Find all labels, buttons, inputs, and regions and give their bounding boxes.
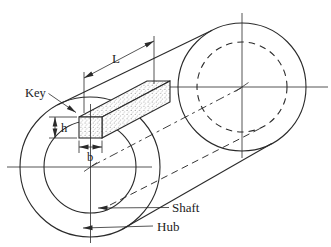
hub-label: Hub xyxy=(157,219,179,234)
dim-L-label: L xyxy=(112,51,120,66)
shaft-label: Shaft xyxy=(172,200,200,215)
keyed-shaft-hub-figure: L h b Key Shaft Hub xyxy=(0,0,331,247)
dim-b-label: b xyxy=(87,150,93,164)
shaft-leader-line xyxy=(98,208,169,209)
dim-h-label: h xyxy=(61,121,68,135)
key-label: Key xyxy=(25,86,47,100)
keyed-shaft-hub-diagram: L h b Key Shaft Hub xyxy=(0,0,331,247)
